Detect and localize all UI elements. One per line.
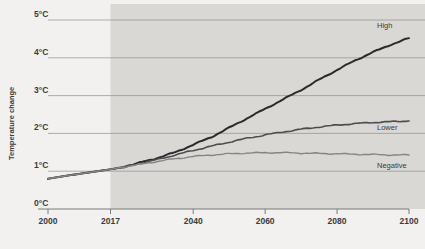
- y-tick-label: 0°C: [34, 198, 48, 208]
- series-label-high: High: [377, 21, 392, 30]
- series-label-lower: Lower: [377, 123, 398, 132]
- x-tick-label: 2100: [400, 216, 419, 226]
- x-tick-label: 2040: [184, 216, 203, 226]
- y-tick-label: 2°C: [34, 122, 48, 132]
- y-tick-label: 5°C: [34, 9, 48, 19]
- y-tick-label: 1°C: [34, 160, 48, 170]
- temperature-change-chart: 200020172040206020802100 0°C1°C2°C3°C4°C…: [0, 0, 425, 249]
- x-tick-label: 2080: [328, 216, 347, 226]
- chart-canvas: 200020172040206020802100 0°C1°C2°C3°C4°C…: [0, 0, 425, 249]
- y-axis-title: Temperature change: [7, 87, 16, 160]
- x-tick-label: 2000: [39, 216, 58, 226]
- x-tick-label: 2017: [101, 216, 120, 226]
- series-label-negative: Negative: [377, 161, 407, 170]
- y-tick-label: 3°C: [34, 85, 48, 95]
- y-tick-label: 4°C: [34, 47, 48, 57]
- x-tick-label: 2060: [256, 216, 275, 226]
